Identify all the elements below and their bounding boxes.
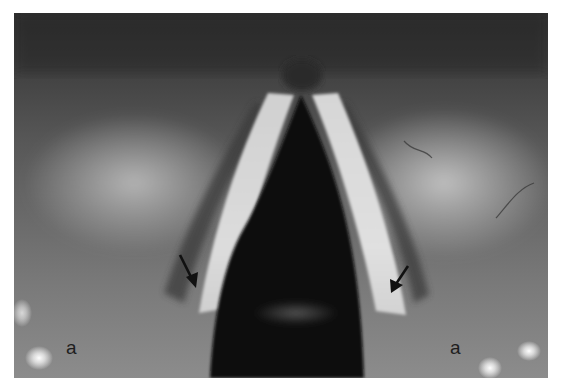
specular-highlight (25, 346, 53, 370)
label-a-right: a (450, 338, 461, 357)
subglottic-reflection (254, 301, 338, 325)
specular-highlight (517, 341, 541, 361)
photo-canvas (14, 13, 548, 378)
anterior-commissure (282, 59, 322, 91)
top-shadow (14, 13, 548, 73)
specular-highlight (478, 357, 502, 378)
label-a-left: a (66, 338, 77, 357)
laryngoscopy-photo: a a (14, 13, 548, 378)
